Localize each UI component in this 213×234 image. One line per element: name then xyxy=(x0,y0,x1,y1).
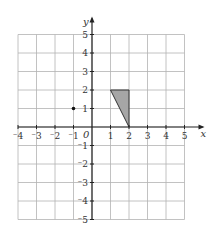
y-axis-label: y xyxy=(82,16,89,27)
y-tick-label: 3 xyxy=(82,67,88,77)
x-tick-label: 2 xyxy=(126,131,132,141)
y-tick-label: ⁻3 xyxy=(78,178,89,188)
x-tick-label: 5 xyxy=(182,131,188,141)
x-tick-label: ⁻3 xyxy=(31,131,42,141)
x-axis-label: x xyxy=(201,128,207,139)
y-tick-label: ⁻2 xyxy=(78,159,88,169)
plotted-point xyxy=(72,107,76,111)
x-tick-label: 3 xyxy=(145,131,151,141)
y-tick-label: ⁻1 xyxy=(78,141,88,151)
origin-label: 0 xyxy=(83,129,90,140)
y-tick-label: ⁻4 xyxy=(78,196,89,206)
x-tick-label: 4 xyxy=(163,131,169,141)
x-tick-label: 1 xyxy=(108,131,114,141)
x-tick-label: ⁻4 xyxy=(13,131,24,141)
y-tick-label: 4 xyxy=(82,48,88,58)
axes xyxy=(18,17,205,220)
y-tick-label: 1 xyxy=(82,104,88,114)
y-tick-label: 2 xyxy=(82,85,88,95)
x-tick-label: ⁻1 xyxy=(68,131,78,141)
coordinate-grid: ⁻4⁻3⁻2⁻11234554321⁻1⁻2⁻3⁻4⁻5 x y 0 xyxy=(0,0,213,234)
y-tick-label: ⁻5 xyxy=(78,215,89,225)
y-tick-label: 5 xyxy=(82,30,88,40)
x-tick-label: ⁻2 xyxy=(50,131,60,141)
